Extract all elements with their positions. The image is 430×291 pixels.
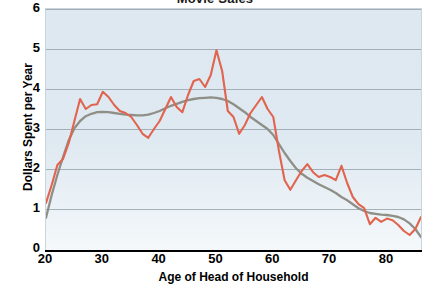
chart-title-cropped: Movie Sales: [0, 0, 430, 7]
plot-inner: [46, 9, 421, 250]
y-tick-label: 6: [2, 1, 40, 14]
y-tick-label: 4: [2, 81, 40, 94]
x-tick-label: 40: [151, 252, 165, 265]
y-tick-label: 5: [2, 41, 40, 54]
x-tick-label: 80: [379, 252, 393, 265]
series-lines: [46, 9, 421, 249]
y-tick-label: 1: [2, 201, 40, 214]
x-tick-label: 20: [38, 252, 52, 265]
y-axis-tick-labels: 0123456: [0, 0, 40, 291]
y-tick-label: 2: [2, 161, 40, 174]
x-tick-label: 70: [322, 252, 336, 265]
y-tick-label: 3: [2, 121, 40, 134]
series-line-observed: [46, 50, 421, 235]
x-tick-label: 60: [265, 252, 279, 265]
x-axis-title: Age of Head of Household: [45, 270, 422, 284]
chart-title: Movie Sales: [0, 0, 430, 6]
plot-area: [45, 8, 422, 250]
x-tick-label: 30: [95, 252, 109, 265]
x-tick-label: 50: [208, 252, 222, 265]
x-axis-tick-labels: 20304050607080: [0, 252, 430, 270]
chart-container: Movie Sales Dollars Spent per Year 01234…: [0, 0, 430, 291]
